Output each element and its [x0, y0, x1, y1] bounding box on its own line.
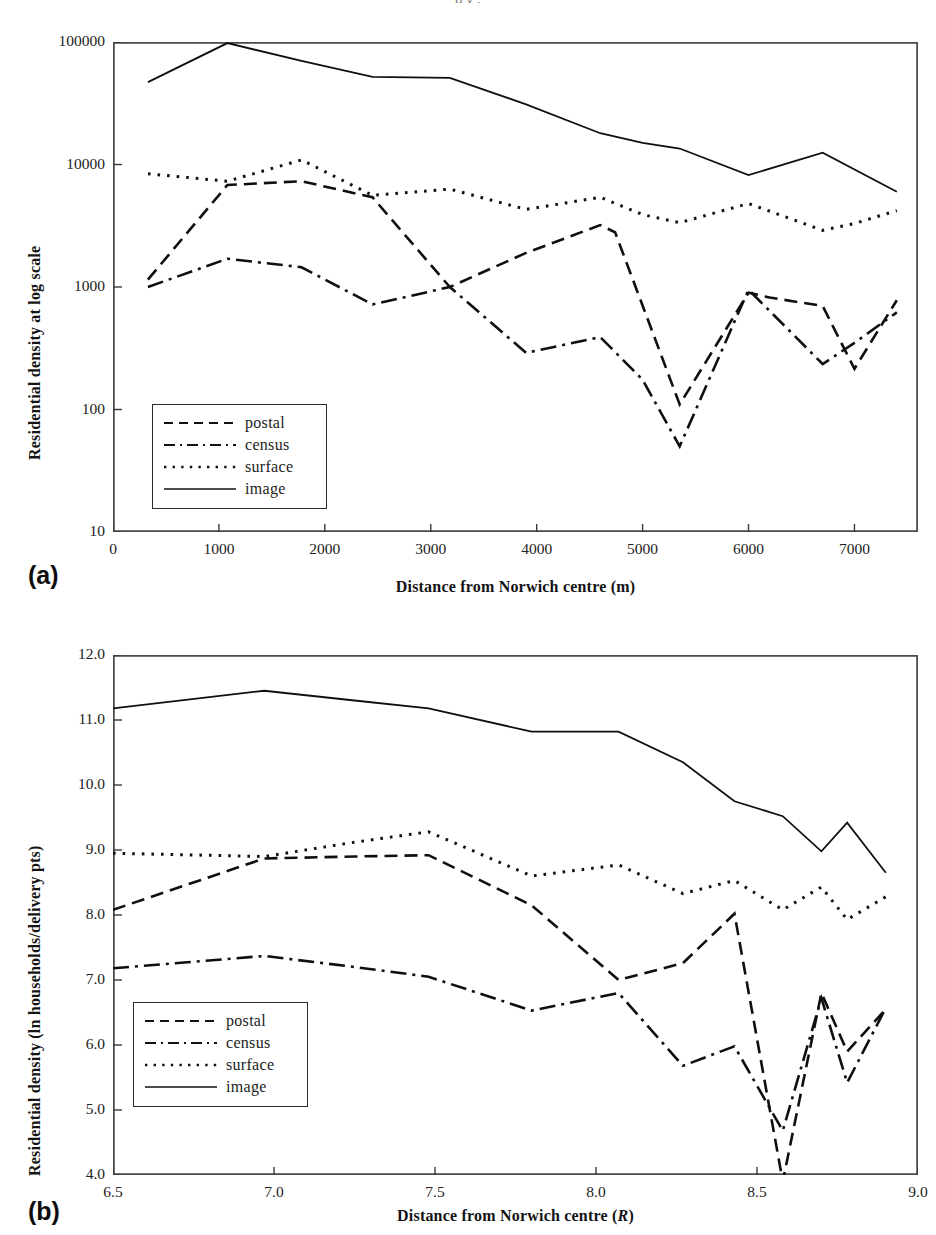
legend-label-census: census — [245, 437, 289, 453]
panel-b-legend: postal census surface image — [133, 1002, 308, 1107]
legend-item-census: census — [162, 434, 317, 456]
panel-b: Residential density (ln households/deliv… — [0, 612, 936, 1235]
panel-a-legend: postal census surface image — [152, 404, 327, 509]
y-tick-label: 7.0 — [37, 970, 105, 988]
x-tick-label: 5000 — [603, 540, 683, 558]
x-tick-label: 0 — [73, 540, 153, 558]
y-tick-label: 100000 — [37, 32, 105, 50]
legend-item-surface: surface — [143, 1054, 298, 1076]
panel-b-x-axis-title: Distance from Norwich centre (R) — [113, 1207, 918, 1225]
legend-label-postal: postal — [226, 1013, 266, 1029]
y-tick-label: 6.0 — [37, 1035, 105, 1053]
y-tick-label: 9.0 — [37, 840, 105, 858]
legend-item-census: census — [143, 1032, 298, 1054]
x-tick-label: 2000 — [285, 540, 365, 558]
legend-key-solid-icon — [143, 1080, 219, 1094]
panel-b-x-axis-title-prefix: Distance from Norwich centre ( — [397, 1207, 617, 1224]
x-tick-label: 4000 — [497, 540, 577, 558]
x-tick-label: 7.0 — [234, 1183, 314, 1201]
panel-b-x-axis-title-symbol: R — [618, 1207, 629, 1224]
x-tick-label: 3000 — [391, 540, 471, 558]
legend-key-dashed-icon — [162, 416, 238, 430]
legend-item-image: image — [143, 1076, 298, 1098]
y-tick-label: 1000 — [37, 277, 105, 295]
x-tick-label: 1000 — [179, 540, 259, 558]
y-tick-label: 12.0 — [37, 645, 105, 663]
figure-residential-density: g y , Residential density at log scale D… — [0, 0, 936, 1235]
legend-key-dash-dot-icon — [143, 1036, 219, 1050]
panel-b-letter: (b) — [28, 1197, 60, 1226]
panel-a: Residential density at log scale Distanc… — [0, 0, 936, 612]
y-tick-label: 10.0 — [37, 775, 105, 793]
x-tick-label: 6.5 — [73, 1183, 153, 1201]
legend-label-image: image — [226, 1079, 267, 1095]
y-tick-label: 4.0 — [37, 1165, 105, 1183]
legend-label-postal: postal — [245, 415, 285, 431]
y-tick-label: 11.0 — [37, 710, 105, 728]
legend-key-dash-dot-icon — [162, 438, 238, 452]
x-tick-label: 7.5 — [395, 1183, 475, 1201]
legend-item-surface: surface — [162, 456, 317, 478]
panel-a-letter: (a) — [28, 561, 59, 590]
x-tick-label: 9.0 — [878, 1183, 936, 1201]
legend-item-postal: postal — [162, 412, 317, 434]
legend-item-postal: postal — [143, 1010, 298, 1032]
x-tick-label: 8.5 — [717, 1183, 797, 1201]
x-tick-label: 8.0 — [556, 1183, 636, 1201]
legend-label-image: image — [245, 481, 286, 497]
panel-b-x-axis-title-suffix: ) — [628, 1207, 634, 1224]
y-tick-label: 5.0 — [37, 1100, 105, 1118]
x-tick-label: 7000 — [814, 540, 894, 558]
legend-key-solid-icon — [162, 482, 238, 496]
y-tick-label: 8.0 — [37, 905, 105, 923]
y-tick-label: 10000 — [37, 155, 105, 173]
legend-key-dashed-icon — [143, 1014, 219, 1028]
legend-label-census: census — [226, 1035, 270, 1051]
legend-label-surface: surface — [245, 459, 293, 475]
legend-key-dotted-icon — [143, 1058, 219, 1072]
x-tick-label: 6000 — [709, 540, 789, 558]
panel-b-y-axis-title: Residential density (ln households/deliv… — [26, 845, 44, 1176]
legend-item-image: image — [162, 478, 317, 500]
y-tick-label: 10 — [37, 522, 105, 540]
y-tick-label: 100 — [37, 400, 105, 418]
legend-label-surface: surface — [226, 1057, 274, 1073]
legend-key-dotted-icon — [162, 460, 238, 474]
panel-a-x-axis-title: Distance from Norwich centre (m) — [113, 578, 918, 596]
